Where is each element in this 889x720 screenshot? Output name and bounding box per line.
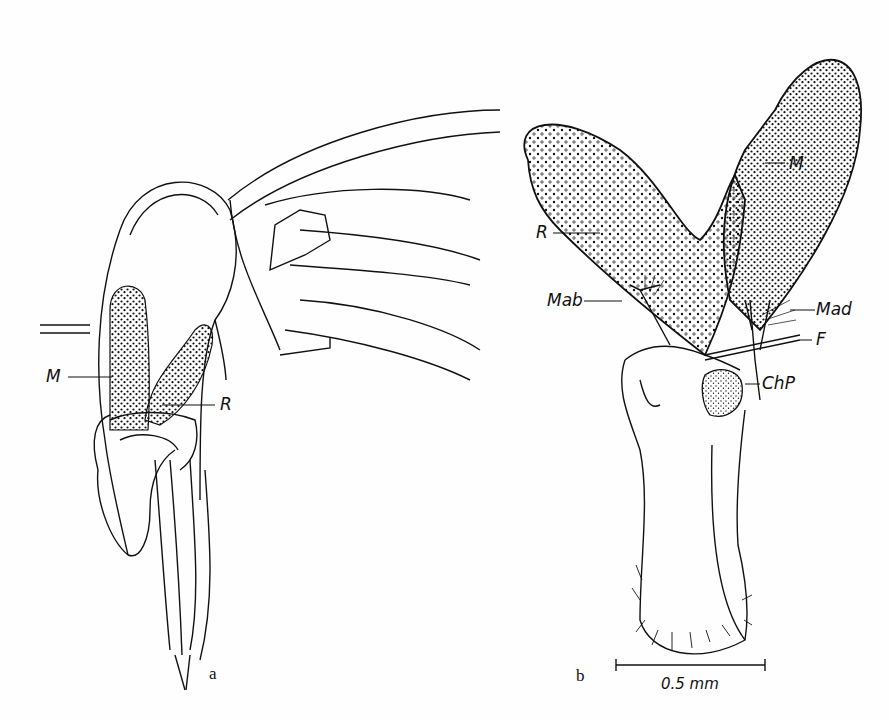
label-b-m: M (789, 155, 804, 172)
anatomical-figure: M R a M R Mab Mad F ChP b 0.5 mm (0, 0, 889, 720)
line-drawings (0, 0, 889, 720)
figure-b-lobe-r (524, 125, 745, 355)
label-b-f: F (816, 331, 826, 348)
label-b-mab: Mab (547, 292, 583, 309)
figure-a-organ-m (110, 286, 149, 430)
label-b-r: R (536, 224, 548, 241)
label-b-mad: Mad (816, 301, 852, 318)
panel-letter-a: a (209, 665, 217, 682)
figure-a-organ-r (145, 325, 213, 425)
figure-b-chp (702, 370, 742, 416)
scale-bar (616, 659, 765, 671)
panel-letter-b: b (576, 667, 585, 684)
figure-b-lobe-m (724, 60, 861, 330)
label-a-r: R (220, 396, 232, 413)
scale-bar-label: 0.5 mm (661, 675, 719, 693)
label-b-chp: ChP (762, 375, 795, 392)
label-a-m: M (46, 368, 61, 385)
figure-a-drawing (40, 110, 500, 690)
